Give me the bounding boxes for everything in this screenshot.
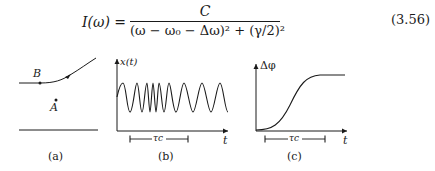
label-b: B	[33, 67, 41, 80]
caption-c: (c)	[287, 150, 302, 163]
y-axis-label-c: Δφ	[260, 59, 276, 72]
figure	[0, 0, 435, 171]
x-axis-label-b: t	[223, 134, 227, 147]
caption-a: (a)	[48, 150, 63, 163]
point-b-dot	[39, 82, 42, 85]
panel-a	[19, 58, 98, 130]
phase-sigmoid-curve	[256, 75, 345, 130]
panel-c	[256, 64, 347, 144]
panel-b	[117, 59, 228, 144]
tau-label-b: τc	[153, 133, 163, 143]
label-a: A	[50, 101, 58, 114]
direction-arrow-icon	[65, 74, 71, 79]
oscillation-wave	[117, 83, 228, 112]
tau-label-c: τc	[289, 133, 299, 143]
x-axis-label-c: t	[343, 134, 347, 147]
trajectory-curve	[19, 58, 96, 83]
caption-b: (b)	[158, 150, 174, 163]
y-axis-label-b: x(t)	[120, 56, 137, 67]
